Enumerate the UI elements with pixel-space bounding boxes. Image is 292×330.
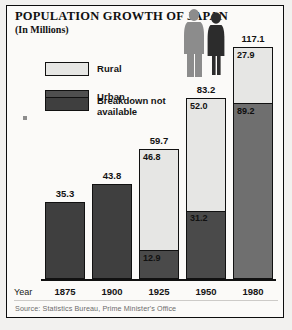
x-tick-1925: 1925 bbox=[137, 286, 181, 297]
x-axis-line bbox=[41, 279, 276, 281]
bar-segment-rural-1925 bbox=[140, 150, 178, 251]
bar-segment-na-1875 bbox=[46, 203, 84, 278]
source-note: Source: Statistics Bureau, Prime Ministe… bbox=[15, 304, 176, 313]
x-tick-1980: 1980 bbox=[231, 286, 275, 297]
bar-value-urban-1925: 12.9 bbox=[143, 253, 161, 263]
x-tick-1900: 1900 bbox=[90, 286, 134, 297]
bar-value-rural-1925: 46.8 bbox=[143, 152, 161, 162]
bar-segment-na-1900 bbox=[93, 185, 131, 278]
bar-total-1980: 117.1 bbox=[233, 33, 273, 44]
bar-segment-urban-1980 bbox=[234, 104, 272, 278]
x-axis-title: Year bbox=[14, 287, 32, 297]
bar-value-urban-1950: 31.2 bbox=[190, 213, 208, 223]
bar-segment-rural-1950 bbox=[187, 99, 225, 212]
bar-1980[interactable] bbox=[233, 47, 273, 279]
bar-total-1950: 83.2 bbox=[186, 84, 226, 95]
source-divider bbox=[14, 300, 278, 301]
bar-1875[interactable] bbox=[45, 202, 85, 279]
bar-value-rural-1980: 27.9 bbox=[237, 50, 255, 60]
bar-total-1900: 43.8 bbox=[92, 170, 132, 181]
bar-total-1875: 35.3 bbox=[45, 188, 85, 199]
chart-canvas: POPULATION GROWTH OF JAPAN (In Millions) bbox=[0, 0, 292, 330]
bar-1950[interactable] bbox=[186, 98, 226, 279]
x-tick-1950: 1950 bbox=[184, 286, 228, 297]
bar-value-urban-1980: 89.2 bbox=[237, 106, 255, 116]
x-tick-1875: 1875 bbox=[43, 286, 87, 297]
bar-total-1925: 59.7 bbox=[139, 135, 179, 146]
bar-value-rural-1950: 52.0 bbox=[190, 101, 208, 111]
plot-area: 35.3 43.8 59.7 46.8 12.9 83.2 52.0 31.2 bbox=[16, 30, 274, 280]
bar-1900[interactable] bbox=[92, 184, 132, 279]
